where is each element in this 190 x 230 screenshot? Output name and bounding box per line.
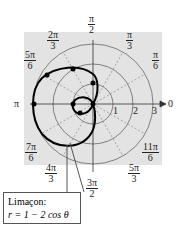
- radius-label-1: 1: [113, 106, 118, 116]
- label-pi-over-2: π2: [88, 14, 95, 35]
- callout-equation: r = 1 − 2 cos θ: [8, 208, 76, 221]
- label-7pi-over-6: 7π6: [25, 142, 37, 163]
- callout-box: Limaçon: r = 1 − 2 cos θ: [3, 192, 81, 224]
- label-pi: π: [14, 99, 19, 109]
- label-5pi-over-6: 5π6: [24, 50, 36, 71]
- label-pi-over-6: π6: [152, 50, 159, 71]
- label-5pi-over-3: 5π3: [128, 163, 140, 184]
- label-11pi-over-6: 11π6: [142, 142, 159, 163]
- label-2pi-over-3: 2π3: [47, 30, 59, 51]
- label-0: 0: [168, 99, 173, 109]
- label-4pi-over-3: 4π3: [45, 163, 57, 184]
- callout-title: Limaçon:: [8, 195, 76, 208]
- radius-label-3: 3: [152, 106, 157, 116]
- label-3pi-over-2: 3π2: [86, 178, 98, 199]
- radius-label-2: 2: [133, 106, 138, 116]
- label-pi-over-3: π3: [126, 30, 133, 51]
